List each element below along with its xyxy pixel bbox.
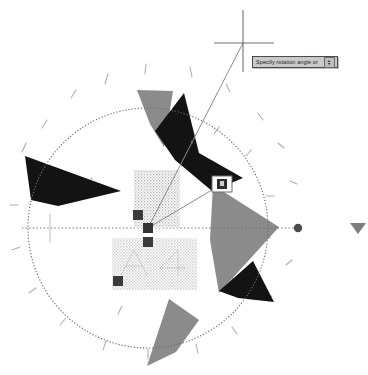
edge-marker-triangle (350, 223, 366, 234)
gray-triangle-south (147, 299, 199, 366)
dynamic-input-prompt[interactable]: Specify rotation angle or ▴ ▾ (252, 56, 338, 68)
spinner-down-glyph: ▾ (328, 62, 330, 66)
hatch-rect-lower[interactable] (112, 238, 197, 290)
dark-triangle-west (25, 156, 121, 206)
grip-middle[interactable] (143, 237, 153, 247)
hot-grip-inner (220, 181, 224, 186)
selected-objects[interactable] (112, 170, 197, 290)
down-arrow-spinner-icon[interactable]: ▴ ▾ (324, 57, 335, 68)
rubberband-node (191, 141, 194, 144)
grip-upper[interactable] (133, 210, 143, 220)
hot-grip[interactable] (212, 176, 232, 192)
center-point-dot[interactable] (294, 224, 302, 232)
cad-viewport[interactable]: Specify rotation angle or ▴ ▾ (0, 0, 368, 375)
grip-lower[interactable] (113, 276, 123, 286)
dynamic-input-prompt-text: Specify rotation angle or (256, 57, 322, 68)
grip-base[interactable] (143, 223, 153, 233)
